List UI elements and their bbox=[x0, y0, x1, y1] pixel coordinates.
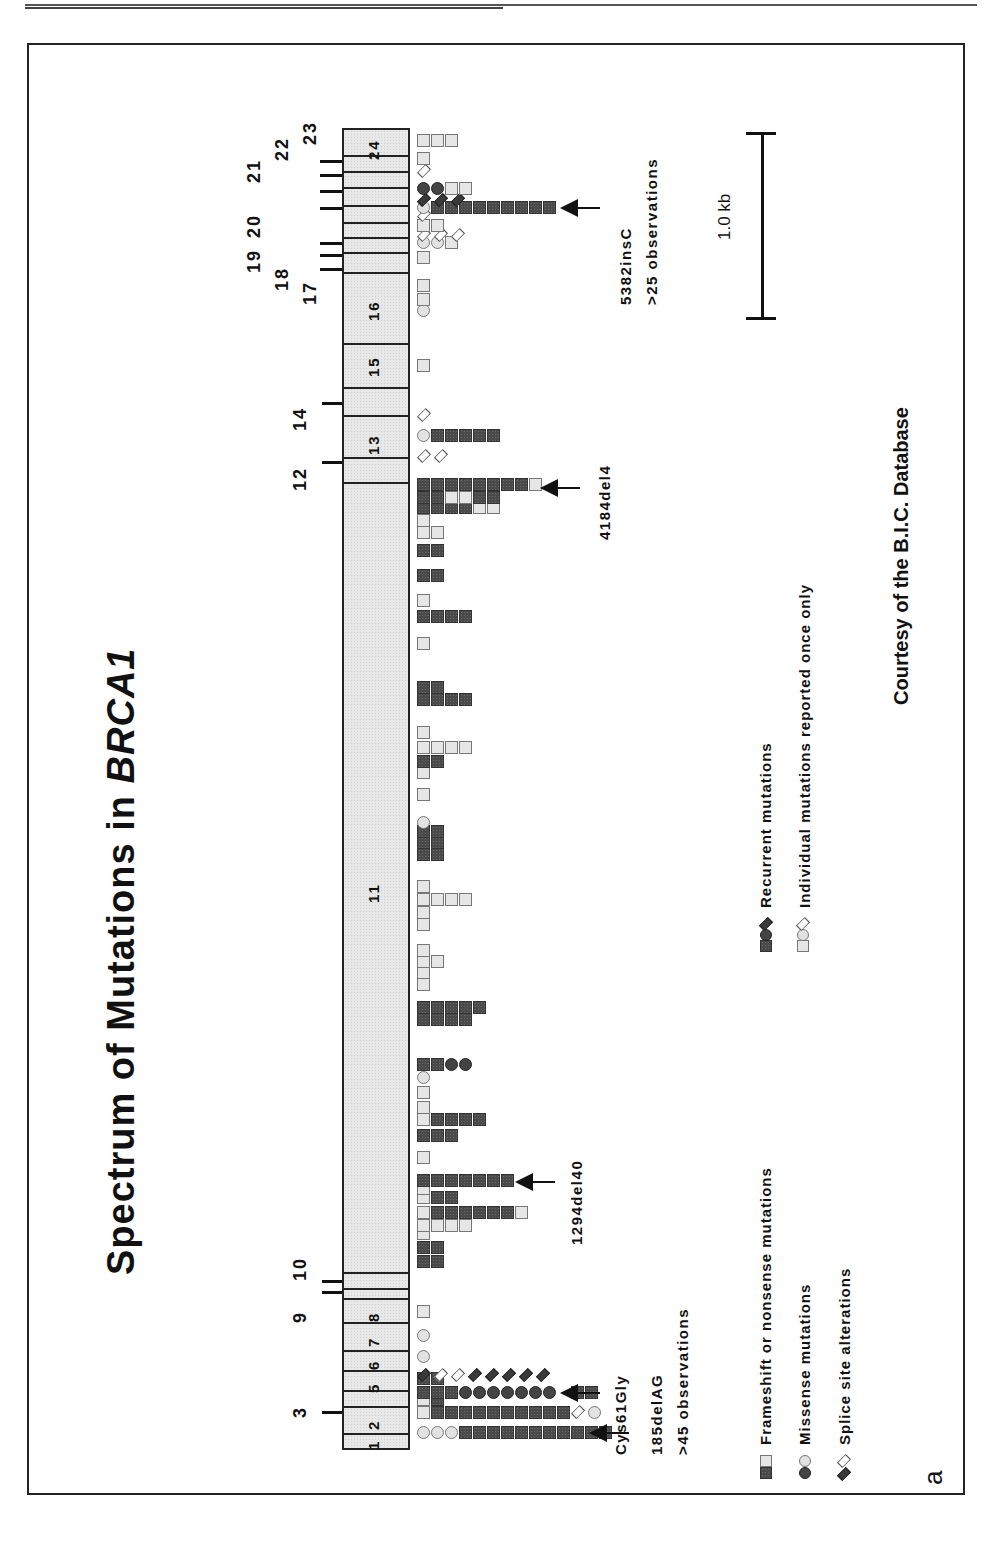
scale-bar-line bbox=[761, 132, 764, 318]
legend-individual-label: Individual mutations reported once only bbox=[796, 584, 813, 908]
recurrent-frameshift-square bbox=[431, 1406, 444, 1419]
exon-outer-label: 21 bbox=[244, 159, 265, 183]
exon-boundary bbox=[344, 387, 408, 389]
recurrent-frameshift-square bbox=[431, 1001, 444, 1014]
filled-square-icon bbox=[760, 1467, 772, 1479]
recurrent-frameshift-square bbox=[431, 1241, 444, 1254]
recurrent-frameshift-square bbox=[431, 569, 444, 582]
individual-frameshift-square bbox=[431, 134, 444, 147]
recurrent-frameshift-square bbox=[501, 201, 514, 214]
hotspot-label: 1294del40 bbox=[568, 1160, 585, 1245]
recurrent-missense-circle bbox=[431, 182, 444, 195]
recurrent-missense-circle bbox=[473, 1386, 486, 1399]
recurrent-frameshift-square bbox=[431, 1113, 444, 1126]
open-square-icon bbox=[797, 940, 809, 952]
filled-square-icon bbox=[760, 940, 772, 952]
recurrent-frameshift-square bbox=[445, 610, 458, 623]
exon-label: 5 bbox=[365, 1383, 382, 1393]
exon-label: 16 bbox=[365, 300, 382, 321]
recurrent-frameshift-square bbox=[417, 1129, 430, 1142]
filled-circle-icon bbox=[799, 1467, 811, 1479]
open-circle-icon bbox=[797, 929, 809, 941]
recurrent-frameshift-square bbox=[431, 1058, 444, 1071]
individual-frameshift-square bbox=[417, 514, 430, 527]
individual-frameshift-square bbox=[445, 1219, 458, 1232]
recurrent-frameshift-square bbox=[431, 610, 444, 623]
exon-leader-tick bbox=[320, 160, 342, 163]
recurrent-frameshift-square bbox=[487, 201, 500, 214]
recurrent-frameshift-square bbox=[487, 1174, 500, 1187]
recurrent-frameshift-square bbox=[431, 1386, 444, 1399]
recurrent-frameshift-square bbox=[431, 491, 444, 504]
exon-boundary bbox=[344, 415, 408, 417]
exon-leader-tick bbox=[320, 174, 342, 177]
exon-leader-tick bbox=[322, 1280, 342, 1283]
individual-frameshift-square bbox=[417, 251, 430, 264]
exon-outer-label: 23 bbox=[300, 121, 321, 145]
recurrent-frameshift-square bbox=[431, 693, 444, 706]
exon-boundary bbox=[344, 482, 408, 484]
open-circle-icon bbox=[799, 1455, 811, 1467]
recurrent-frameshift-square bbox=[417, 755, 430, 768]
recurrent-frameshift-square bbox=[473, 1406, 486, 1419]
recurrent-frameshift-square bbox=[417, 1255, 430, 1268]
individual-frameshift-square bbox=[417, 893, 430, 906]
arrow-shaft bbox=[576, 1392, 600, 1394]
recurrent-frameshift-square bbox=[459, 1001, 472, 1014]
individual-frameshift-square bbox=[417, 726, 430, 739]
individual-frameshift-square bbox=[431, 741, 444, 754]
exon-label: 2 bbox=[365, 1420, 382, 1430]
figure-title-prefix: Spectrum of Mutations in bbox=[100, 783, 142, 1275]
recurrent-frameshift-square bbox=[487, 478, 500, 491]
recurrent-missense-circle bbox=[515, 1386, 528, 1399]
recurrent-frameshift-square bbox=[431, 1191, 444, 1204]
recurrent-frameshift-square bbox=[431, 429, 444, 442]
hotspot-label: 5382insC bbox=[617, 227, 634, 305]
recurrent-missense-circle bbox=[529, 1386, 542, 1399]
recurrent-frameshift-square bbox=[459, 693, 472, 706]
recurrent-frameshift-square bbox=[431, 1206, 444, 1219]
top-rule-real bbox=[25, 4, 977, 6]
arrow-shaft bbox=[576, 207, 600, 209]
recurrent-frameshift-square bbox=[431, 825, 444, 838]
recurrent-frameshift-square bbox=[515, 1406, 528, 1419]
recurrent-frameshift-square bbox=[529, 201, 542, 214]
scale-bar-cap-top bbox=[746, 132, 776, 135]
individual-frameshift-square bbox=[515, 1206, 528, 1219]
figure-title-gene: BRCA1 bbox=[100, 648, 142, 784]
individual-frameshift-square bbox=[431, 1219, 444, 1232]
recurrent-frameshift-square bbox=[445, 1386, 458, 1399]
individual-frameshift-square bbox=[417, 1101, 430, 1114]
individual-frameshift-square bbox=[417, 279, 430, 292]
individual-frameshift-square bbox=[445, 893, 458, 906]
recurrent-frameshift-square bbox=[473, 478, 486, 491]
recurrent-frameshift-square bbox=[459, 1206, 472, 1219]
recurrent-frameshift-square bbox=[543, 201, 556, 214]
exon-outer-label: 14 bbox=[290, 407, 311, 431]
individual-frameshift-square bbox=[417, 359, 430, 372]
individual-frameshift-square bbox=[417, 906, 430, 919]
individual-frameshift-square bbox=[417, 219, 430, 232]
recurrent-missense-circle bbox=[501, 1386, 514, 1399]
legend-missense-label: Missense mutations bbox=[796, 1284, 813, 1445]
exon-leader-tick bbox=[320, 242, 342, 245]
recurrent-frameshift-square bbox=[417, 478, 430, 491]
recurrent-missense-circle bbox=[459, 1058, 472, 1071]
exon-label: 1 bbox=[365, 1440, 382, 1450]
exon-boundary bbox=[344, 1406, 408, 1408]
individual-missense-circle bbox=[588, 1406, 601, 1419]
individual-frameshift-square bbox=[431, 955, 444, 968]
legend-splice-label: Splice site alterations bbox=[836, 1268, 853, 1445]
exon-label: 24 bbox=[365, 139, 382, 160]
exon-boundary bbox=[344, 237, 408, 239]
hotspot-label: 4184del4 bbox=[596, 465, 613, 540]
filled-circle-icon bbox=[760, 929, 772, 941]
recurrent-frameshift-square bbox=[459, 1174, 472, 1187]
credit-text: Courtesy of the B.I.C. Database bbox=[890, 407, 913, 705]
recurrent-frameshift-square bbox=[557, 1406, 570, 1419]
exon-boundary bbox=[344, 205, 408, 207]
individual-frameshift-square bbox=[431, 219, 444, 232]
individual-missense-circle bbox=[417, 1071, 430, 1084]
recurrent-frameshift-square bbox=[473, 1113, 486, 1126]
recurrent-frameshift-square bbox=[459, 1013, 472, 1026]
